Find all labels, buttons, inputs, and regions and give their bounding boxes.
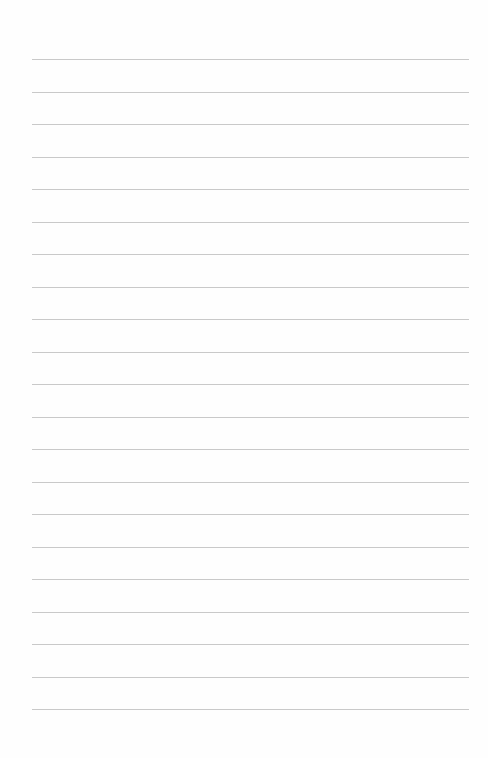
ruled-line	[32, 514, 469, 515]
ruled-line	[32, 59, 469, 60]
ruled-line	[32, 157, 469, 158]
ruled-paper-page	[0, 0, 488, 758]
ruled-line	[32, 189, 469, 190]
ruled-line	[32, 579, 469, 580]
ruled-line	[32, 254, 469, 255]
ruled-line	[32, 417, 469, 418]
ruled-line	[32, 319, 469, 320]
ruled-line	[32, 222, 469, 223]
ruled-line	[32, 547, 469, 548]
ruled-line	[32, 677, 469, 678]
ruled-line	[32, 709, 469, 710]
ruled-line	[32, 449, 469, 450]
ruled-line	[32, 352, 469, 353]
ruled-line	[32, 124, 469, 125]
ruled-line	[32, 287, 469, 288]
ruled-line	[32, 384, 469, 385]
ruled-line	[32, 612, 469, 613]
ruled-line	[32, 644, 469, 645]
ruled-line	[32, 482, 469, 483]
ruled-line	[32, 92, 469, 93]
